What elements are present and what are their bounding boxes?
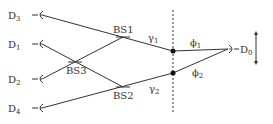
detector-d4: D4 <box>8 103 43 116</box>
dot-2 <box>171 71 176 76</box>
arrow-up-head <box>254 31 258 35</box>
dot-1 <box>171 49 176 54</box>
detector-d0: D0 <box>229 44 253 57</box>
svg-text:D4: D4 <box>8 103 21 116</box>
bs3-label: BS3 <box>66 65 87 76</box>
gamma1-label: γ1 <box>148 32 158 45</box>
detector-d3: D3 <box>8 10 43 23</box>
quantum-eraser-diagram: D3 D1 D2 D4 D0 BS1 BS2 BS3 γ1 γ2 ϕ1 ϕ2 <box>0 0 273 124</box>
bs1-label: BS1 <box>113 24 134 35</box>
phi1-label: ϕ1 <box>190 37 201 50</box>
gamma2-label: γ2 <box>149 83 159 96</box>
svg-text:D2: D2 <box>8 74 21 87</box>
path-phi2 <box>173 49 228 73</box>
svg-text:D0: D0 <box>240 44 253 57</box>
detector-d2: D2 <box>8 74 43 87</box>
svg-text:D3: D3 <box>8 10 21 23</box>
bs2-label: BS2 <box>113 90 134 101</box>
phi2-label: ϕ2 <box>192 67 203 80</box>
svg-text:D1: D1 <box>8 39 21 52</box>
detector-d1: D1 <box>8 39 43 52</box>
arrow-down-head <box>254 61 258 65</box>
